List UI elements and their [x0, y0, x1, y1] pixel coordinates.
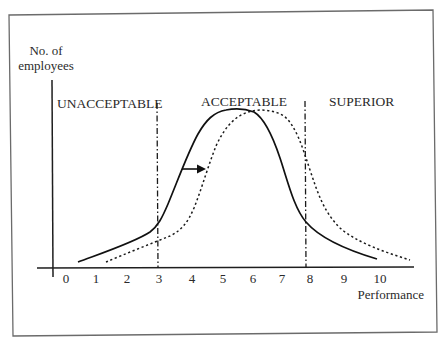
x-tick-1: 1	[93, 271, 100, 286]
x-axis-label: Performance	[358, 287, 425, 302]
x-tick-8: 8	[307, 271, 314, 286]
arrow-right-icon	[197, 165, 206, 174]
y-axis-label-line1: No. of	[29, 43, 63, 58]
x-tick-6: 6	[250, 271, 257, 286]
boundary-line-upper	[305, 101, 306, 267]
region-label-superior: SUPERIOR	[329, 94, 394, 109]
x-tick-5: 5	[220, 271, 227, 286]
x-axis	[37, 267, 414, 268]
dotted-distribution-curve	[106, 110, 410, 262]
performance-distribution-diagram: No. of employees UNACCEPTABLE ACCEPTABLE…	[0, 0, 445, 343]
x-tick-7: 7	[279, 271, 286, 286]
y-axis	[52, 80, 53, 277]
x-tick-2: 2	[124, 271, 131, 286]
x-tick-4: 4	[189, 271, 196, 286]
boundary-line-lower	[157, 103, 158, 268]
region-label-unacceptable: UNACCEPTABLE	[57, 96, 162, 111]
x-tick-9: 9	[341, 271, 348, 286]
region-label-acceptable: ACCEPTABLE	[201, 94, 287, 109]
x-tick-10: 10	[374, 271, 387, 286]
solid-distribution-curve	[78, 109, 377, 262]
x-tick-0: 0	[63, 271, 70, 286]
y-axis-label-line2: employees	[18, 58, 74, 73]
x-tick-labels: 0 1 2 3 4 5 6 7 8 9 10	[63, 271, 387, 286]
x-tick-3: 3	[156, 271, 163, 286]
